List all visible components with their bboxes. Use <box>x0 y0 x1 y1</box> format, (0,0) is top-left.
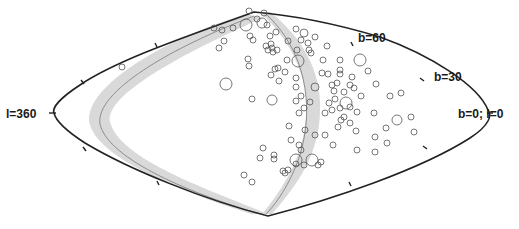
source-marker <box>324 43 330 49</box>
label-b30: b=30 <box>434 70 462 84</box>
source-marker <box>411 129 417 135</box>
source-marker <box>296 110 302 116</box>
source-marker <box>334 80 340 86</box>
source-marker <box>365 68 371 74</box>
source-marker <box>354 109 360 115</box>
source-marker <box>337 67 343 73</box>
source-marker <box>320 57 326 63</box>
source-marker <box>337 57 343 63</box>
source-marker <box>298 37 304 43</box>
source-marker <box>298 93 304 99</box>
source-marker <box>354 54 366 66</box>
source-marker <box>347 120 353 126</box>
source-marker <box>284 57 290 63</box>
source-marker <box>249 179 255 185</box>
source-marker <box>268 41 274 47</box>
label-b60: b=60 <box>358 31 386 45</box>
source-marker <box>354 147 360 153</box>
source-marker <box>276 78 282 84</box>
source-marker <box>347 82 353 88</box>
source-marker <box>408 114 414 120</box>
sky-map: l=360 b=60 b=30 b=0; l=0 <box>0 0 519 229</box>
source-marker <box>293 98 299 104</box>
source-marker <box>293 75 299 81</box>
source-marker <box>260 145 266 151</box>
source-marker <box>293 84 299 90</box>
source-marker <box>267 95 277 105</box>
source-marker <box>398 90 404 96</box>
source-marker <box>340 97 352 109</box>
source-marker <box>245 56 251 62</box>
source-marker <box>246 63 252 69</box>
source-marker <box>322 110 328 116</box>
source-marker <box>335 124 341 130</box>
source-marker <box>392 115 402 125</box>
source-marker <box>353 128 359 134</box>
source-marker <box>341 89 347 95</box>
source-marker <box>332 96 338 102</box>
source-marker <box>358 93 364 99</box>
source-marker <box>383 125 389 131</box>
label-l360: l=360 <box>6 107 37 121</box>
source-marker <box>282 69 288 75</box>
source-marker <box>267 33 273 39</box>
source-marker <box>300 29 308 37</box>
sky-outline <box>54 12 490 216</box>
source-marker <box>349 74 355 80</box>
source-marker <box>371 110 377 116</box>
source-marker <box>387 93 393 99</box>
source-marker <box>286 123 292 129</box>
source-marker <box>312 34 318 40</box>
source-marker <box>322 132 328 138</box>
source-marker <box>326 100 332 106</box>
source-marker <box>221 38 227 44</box>
source-marker <box>331 88 337 94</box>
source-marker <box>250 37 256 43</box>
source-marker <box>351 85 357 91</box>
source-marker <box>288 137 294 143</box>
source-marker <box>319 70 325 76</box>
source-marker <box>329 107 335 113</box>
source-marker <box>119 64 125 70</box>
source-marker <box>373 81 379 87</box>
label-b0-l0: b=0; l=0 <box>458 107 504 121</box>
source-marker <box>305 40 311 46</box>
source-marker <box>301 105 307 111</box>
source-marker <box>384 140 390 146</box>
source-marker <box>220 78 232 90</box>
source-marker <box>257 155 263 161</box>
source-marker <box>249 96 255 102</box>
source-marker <box>372 134 378 140</box>
source-marker <box>325 71 331 77</box>
source-marker <box>268 72 274 78</box>
source-marker <box>273 29 279 35</box>
source-marker <box>330 142 336 148</box>
source-marker <box>241 172 247 178</box>
source-marker <box>293 26 299 32</box>
tick-marks <box>49 42 493 186</box>
source-marker <box>216 45 222 51</box>
source-marker <box>257 18 267 28</box>
source-marker <box>271 156 277 162</box>
source-marker <box>372 149 378 155</box>
source-marker <box>247 33 253 39</box>
